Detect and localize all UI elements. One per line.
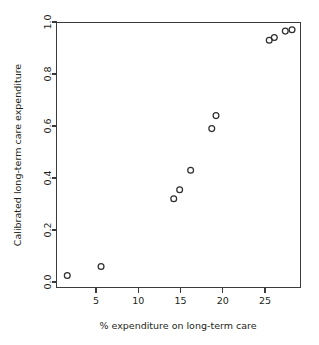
x-tick-label-4: 25 bbox=[259, 295, 271, 306]
data-point bbox=[177, 187, 183, 193]
y-tick-label-4: 0.8 bbox=[42, 66, 53, 81]
data-point bbox=[271, 35, 277, 41]
x-tick-label-2: 15 bbox=[174, 295, 186, 306]
y-tick-label-5: 1.0 bbox=[42, 14, 53, 29]
scatter-points-group bbox=[64, 27, 295, 279]
data-point bbox=[171, 196, 177, 202]
y-tick-label-1: 0.2 bbox=[42, 222, 53, 237]
scatter-plot-figure: 0.00.20.40.60.81.0 510152025 % expenditu… bbox=[0, 0, 319, 345]
plot-canvas: 0.00.20.40.60.81.0 510152025 % expenditu… bbox=[0, 0, 319, 345]
data-point bbox=[282, 28, 288, 34]
y-axis-ticks bbox=[52, 22, 57, 282]
y-axis-title: Calibrated long-term care expenditure bbox=[12, 64, 23, 247]
data-point bbox=[213, 113, 219, 119]
x-axis-ticks bbox=[96, 288, 265, 293]
data-point bbox=[188, 167, 194, 173]
y-tick-label-0: 0.0 bbox=[42, 274, 53, 289]
data-point bbox=[98, 264, 104, 270]
y-tick-label-3: 0.6 bbox=[42, 118, 53, 133]
plot-frame bbox=[57, 23, 301, 288]
x-tick-label-0: 5 bbox=[93, 295, 99, 306]
x-tick-label-3: 20 bbox=[217, 295, 229, 306]
x-axis-title: % expenditure on long-term care bbox=[99, 320, 256, 331]
data-point bbox=[64, 273, 70, 279]
x-tick-label-1: 10 bbox=[132, 295, 144, 306]
data-point bbox=[289, 27, 295, 33]
x-axis-tick-labels: 510152025 bbox=[93, 295, 271, 306]
y-tick-label-2: 0.4 bbox=[42, 170, 53, 185]
y-axis-tick-labels: 0.00.20.40.60.81.0 bbox=[42, 14, 53, 289]
data-point bbox=[209, 126, 215, 132]
plot-border bbox=[57, 23, 301, 288]
